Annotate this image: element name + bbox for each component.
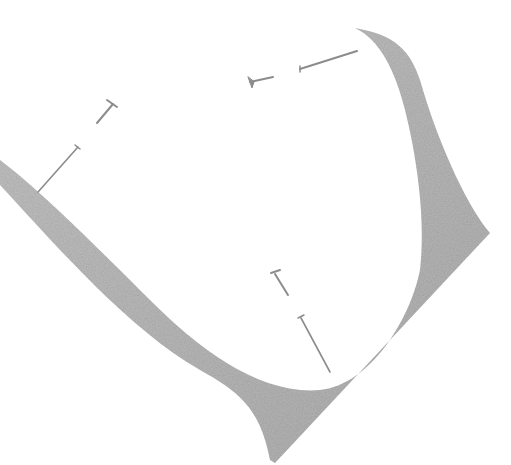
pencil-sketch-artwork (0, 0, 511, 465)
paper-curl-shading (0, 28, 490, 463)
nail-left-lower (38, 145, 80, 192)
nail-bottom-long (298, 315, 330, 372)
nail-top-right-long (300, 51, 357, 72)
nail-bottom-short (271, 270, 288, 295)
nail-left-upper (97, 100, 117, 123)
nail-top-short (248, 77, 273, 88)
